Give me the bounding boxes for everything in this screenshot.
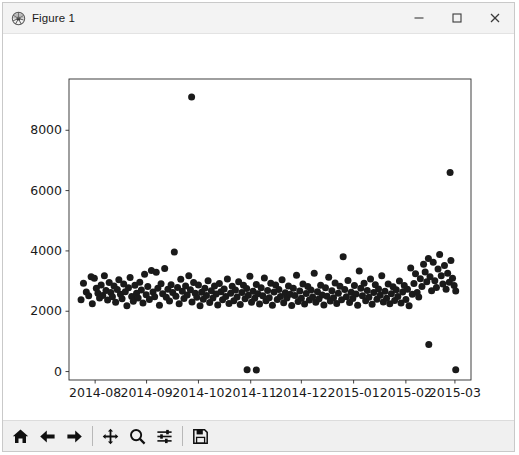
scatter-point	[279, 276, 286, 283]
minimize-button[interactable]	[400, 3, 438, 33]
scatter-point	[322, 284, 329, 291]
configure-subplots-button[interactable]	[151, 423, 178, 449]
scatter-point	[214, 301, 221, 308]
scatter-point	[193, 294, 200, 301]
scatter-point	[205, 277, 212, 284]
window-controls	[400, 3, 514, 33]
zoom-button[interactable]	[124, 423, 151, 449]
scatter-point	[438, 272, 445, 279]
save-button[interactable]	[187, 423, 214, 449]
scatter-point	[266, 294, 273, 301]
scatter-point	[293, 272, 300, 279]
scatter-point	[127, 274, 134, 281]
y-axis-ticks: 02000400060008000	[30, 122, 69, 378]
scatter-point	[344, 277, 351, 284]
scatter-point	[91, 275, 98, 282]
forward-button[interactable]	[61, 423, 88, 449]
axes-frame	[69, 79, 471, 380]
scatter-point	[308, 287, 315, 294]
x-tick-label: 2014-09	[120, 385, 172, 400]
x-tick-label: 2014-08	[69, 385, 121, 400]
scatter-point	[335, 290, 342, 297]
scatter-point	[275, 286, 282, 293]
scatter-point	[433, 284, 440, 291]
scatter-point	[258, 284, 265, 291]
scatter-point	[430, 259, 437, 266]
scatter-point	[221, 285, 228, 292]
scatter-point	[444, 270, 451, 277]
back-button[interactable]	[34, 423, 61, 449]
toolbar-separator	[92, 426, 93, 446]
scatter-point	[356, 268, 363, 275]
scatter-point	[98, 281, 105, 288]
scatter-point	[328, 287, 335, 294]
scatter-point	[246, 273, 253, 280]
scatter-point	[136, 279, 143, 286]
scatter-point	[89, 300, 96, 307]
scatter-point	[367, 275, 374, 282]
scatter-point	[311, 270, 318, 277]
scatter-point	[410, 280, 417, 287]
scatter-point	[325, 274, 332, 281]
scatter-point	[407, 265, 414, 272]
scatter-point	[449, 275, 456, 282]
scatter-point	[393, 286, 400, 293]
x-tick-label: 2015-01	[327, 385, 379, 400]
scatter-point	[261, 275, 268, 282]
scatter-point	[176, 300, 183, 307]
scatter-point	[197, 302, 204, 309]
scatter-point	[296, 288, 303, 295]
scatter-point	[269, 302, 276, 309]
scatter-point	[364, 287, 371, 294]
y-tick-label: 4000	[30, 243, 62, 258]
scatter-point	[425, 341, 432, 348]
scatter-point	[443, 286, 450, 293]
scatter-point	[237, 301, 244, 308]
scatter-point	[216, 280, 223, 287]
scatter-point	[378, 272, 385, 279]
matplotlib-logo-icon	[11, 11, 26, 26]
scatter-point	[166, 297, 173, 304]
scatter-point	[402, 296, 409, 303]
scatter-point	[441, 262, 448, 269]
maximize-button[interactable]	[438, 3, 476, 33]
scatter-point	[153, 269, 160, 276]
figure-window: Figure 1 2014-082	[2, 2, 515, 452]
scatter-point	[420, 261, 427, 268]
scatter-point	[436, 251, 443, 258]
figure-canvas[interactable]: 2014-082014-092014-102014-112014-122015-…	[3, 34, 514, 420]
home-button[interactable]	[7, 423, 34, 449]
scatter-point	[195, 281, 202, 288]
scatter-point	[404, 286, 411, 293]
scatter-point	[406, 302, 413, 309]
scatter-point	[119, 295, 126, 302]
scatter-point	[417, 275, 424, 282]
scatter-plot[interactable]: 2014-082014-092014-102014-112014-122015-…	[3, 34, 514, 420]
scatter-point	[80, 280, 87, 287]
scatter-point	[288, 302, 295, 309]
scatter-point	[172, 293, 179, 300]
scatter-point	[353, 291, 360, 298]
scatter-point	[415, 294, 422, 301]
pan-button[interactable]	[97, 423, 124, 449]
close-button[interactable]	[476, 3, 514, 33]
scatter-point	[381, 288, 388, 295]
x-tick-label: 2014-10	[172, 385, 224, 400]
scatter-point	[341, 286, 348, 293]
scatter-point	[139, 300, 146, 307]
scatter-point	[188, 94, 195, 101]
scatter-point	[431, 277, 438, 284]
scatter-point	[151, 293, 158, 300]
scatter-point	[375, 285, 382, 292]
scatter-point	[185, 272, 192, 279]
scatter-point	[112, 299, 119, 306]
scatter-point	[135, 294, 142, 301]
scatter-point	[351, 282, 358, 289]
scatter-point	[158, 280, 165, 287]
scatter-point	[253, 366, 260, 373]
y-tick-label: 0	[54, 364, 62, 379]
y-tick-label: 2000	[30, 303, 62, 318]
scatter-point	[290, 285, 297, 292]
y-tick-label: 6000	[30, 183, 62, 198]
x-axis-ticks: 2014-082014-092014-102014-112014-122015-…	[69, 380, 481, 400]
